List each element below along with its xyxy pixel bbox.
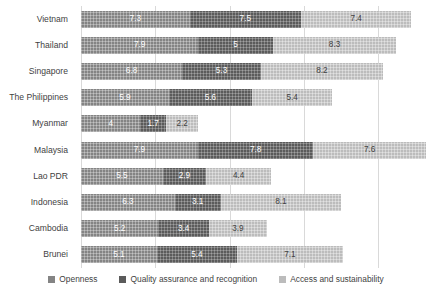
bar-value-label: 7.4 [350,15,361,23]
bar-segment[interactable]: 8.2 [261,63,383,80]
bar-value-label: 3.1 [192,198,203,206]
chart-legend: OpennessQuality assurance and recognitio… [0,274,432,284]
bar-segment[interactable]: 6.8 [81,63,182,80]
legend-item[interactable]: Openness [48,274,97,284]
bar-segment[interactable]: 1.7 [140,115,165,132]
bar-row: Singapore6.85.38.2 [81,63,426,80]
bar-row: Vietnam7.37.57.4 [81,11,426,28]
bar-value-label: 7.8 [250,146,261,154]
category-label: The Philippines [0,89,68,106]
bar-segment[interactable]: 4.4 [206,168,271,185]
bar-value-label: 5.4 [286,94,297,102]
bar-value-label: 5.5 [116,172,127,180]
category-label: Cambodia [0,220,68,237]
bar-segment[interactable]: 2.2 [166,115,199,132]
category-label: Vietnam [0,11,68,28]
category-label: Malaysia [0,142,68,159]
bar-value-label: 7.5 [240,15,251,23]
bar-value-label: 3.4 [178,225,189,233]
bar-value-label: 7.1 [284,251,295,259]
bar-value-label: 8.1 [275,198,286,206]
bar-row: Indonesia6.33.18.1 [81,194,426,211]
legend-swatch-icon [119,276,126,283]
category-label: Thailand [0,37,68,54]
bar-value-label: 5.3 [216,67,227,75]
bar-value-label: 5.2 [114,225,125,233]
bar-segment[interactable]: 5.4 [157,246,237,263]
bar-segment[interactable]: 5.6 [169,89,252,106]
legend-swatch-icon [279,276,286,283]
legend-item[interactable]: Quality assurance and recognition [119,274,257,284]
bar-value-label: 5.4 [191,251,202,259]
bar-segment[interactable]: 7.3 [81,11,190,28]
bar-row: Cambodia5.23.43.9 [81,220,426,237]
stacked-bar-chart: Vietnam7.37.57.4Thailand7.958.3Singapore… [0,0,432,300]
bar-segment[interactable]: 2.9 [163,168,206,185]
bar-value-label: 4 [108,120,113,128]
bar-row: Lao PDR5.52.94.4 [81,168,426,185]
bar-value-label: 2.9 [179,172,190,180]
bar-row: Brunei5.15.47.1 [81,246,426,263]
bar-value-label: 5.6 [205,94,216,102]
bar-value-label: 8.2 [316,67,327,75]
bar-segment[interactable]: 5.5 [81,168,163,185]
bar-segment[interactable]: 7.9 [81,142,198,159]
category-label: Indonesia [0,194,68,211]
bar-segment[interactable]: 7.4 [301,11,411,28]
bar-value-label: 8.3 [329,41,340,49]
category-label: Lao PDR [0,168,68,185]
legend-label: Openness [59,274,97,284]
bar-segment[interactable]: 7.1 [237,246,343,263]
bar-segment[interactable]: 5.1 [81,246,157,263]
bar-value-label: 6.8 [126,67,137,75]
bar-value-label: 5.9 [119,94,130,102]
bar-value-label: 3.9 [232,225,243,233]
bar-row: The Philippines5.95.65.4 [81,89,426,106]
bar-segment[interactable]: 7.8 [198,142,314,159]
bar-segment[interactable]: 5.2 [81,220,158,237]
legend-label: Access and sustainability [290,274,384,284]
bar-value-label: 6.3 [122,198,133,206]
bar-value-label: 4.4 [233,172,244,180]
bar-segment[interactable]: 3.1 [175,194,221,211]
bar-value-label: 5.1 [113,251,124,259]
bar-segment[interactable]: 7.5 [190,11,302,28]
bar-value-label: 7.3 [130,15,141,23]
legend-label: Quality assurance and recognition [130,274,257,284]
legend-swatch-icon [48,276,55,283]
bar-segment[interactable]: 6.3 [81,194,175,211]
bar-segment[interactable]: 8.1 [221,194,341,211]
bar-segment[interactable]: 5.4 [252,89,332,106]
bar-row: Thailand7.958.3 [81,37,426,54]
bar-segment[interactable]: 5.9 [81,89,169,106]
plot-area: Vietnam7.37.57.4Thailand7.958.3Singapore… [81,6,426,268]
category-label: Brunei [0,246,68,263]
bar-segment[interactable]: 4 [81,115,140,132]
legend-item[interactable]: Access and sustainability [279,274,384,284]
bar-value-label: 7.6 [364,146,375,154]
bar-value-label: 7.9 [134,41,145,49]
bar-segment[interactable]: 7.6 [313,142,426,159]
bar-row: Malaysia7.97.87.6 [81,142,426,159]
bar-segment[interactable]: 5.3 [182,63,261,80]
category-label: Myanmar [0,115,68,132]
bar-value-label: 1.7 [147,120,158,128]
category-label: Singapore [0,63,68,80]
bar-segment[interactable]: 7.9 [81,37,198,54]
bar-segment[interactable]: 3.4 [158,220,209,237]
bar-row: Myanmar41.72.2 [81,115,426,132]
bar-segment[interactable]: 8.3 [273,37,396,54]
bar-value-label: 7.9 [134,146,145,154]
bar-segment[interactable]: 3.9 [209,220,267,237]
bar-segment[interactable]: 5 [198,37,272,54]
bar-value-label: 5 [233,41,238,49]
bar-value-label: 2.2 [176,120,187,128]
